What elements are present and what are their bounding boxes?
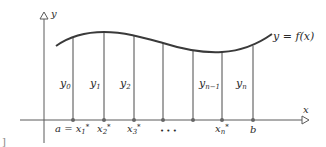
label-ellipsis: • • • xyxy=(160,127,177,135)
riemann-sum-diagram: ] y x y = f(x) y0 y1 y2 yn−1 yn a = x1* … xyxy=(0,0,326,147)
label-yn: yn xyxy=(235,77,247,91)
label-y0: y0 xyxy=(59,77,71,91)
point-x3 xyxy=(132,118,136,122)
margin-mark: ] xyxy=(2,136,6,147)
point-b xyxy=(251,118,255,122)
label-b: b xyxy=(250,124,256,135)
label-y1: y1 xyxy=(89,77,101,91)
x-axis-label: x xyxy=(303,104,309,115)
label-y2: y2 xyxy=(119,77,131,91)
y-axis-arrow-icon xyxy=(40,12,48,19)
ordinates xyxy=(73,32,253,120)
point-x5 xyxy=(191,118,195,122)
label-xn: xn* xyxy=(215,123,229,136)
point-xn xyxy=(220,118,224,122)
label-a-x1: a = x1* xyxy=(55,123,90,136)
x-axis-arrow-icon xyxy=(302,116,309,124)
label-x2: x2* xyxy=(97,123,111,136)
label-yn-1: yn−1 xyxy=(198,77,220,91)
curve-label: y = f(x) xyxy=(272,30,314,43)
point-x2 xyxy=(102,118,106,122)
curve-f-of-x xyxy=(56,32,272,52)
point-x1 xyxy=(71,118,75,122)
label-x3: x3* xyxy=(127,123,141,136)
y-axis-label: y xyxy=(50,8,57,19)
point-x4 xyxy=(161,118,165,122)
